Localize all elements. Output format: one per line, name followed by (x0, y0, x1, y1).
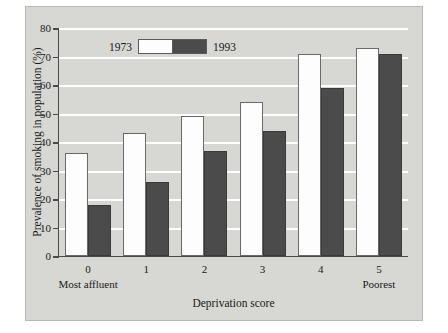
plot-area: Prevalence of smoking in population (%) … (58, 28, 408, 257)
x-axis-title: Deprivation score (59, 297, 408, 309)
x-axis-annotation-poorest: Poorest (362, 278, 395, 290)
bar-1973-1 (123, 133, 146, 256)
y-axis-tick-label: 80 (40, 23, 51, 34)
bar-1993-3 (263, 131, 286, 256)
x-axis-tick-label: 0 (85, 263, 91, 275)
bar-1993-0 (88, 205, 111, 256)
legend-label-1973: 1973 (109, 41, 132, 53)
y-axis-tick-label: 20 (40, 194, 51, 205)
bar-1973-0 (65, 153, 88, 256)
x-axis-tick-label: 4 (318, 263, 324, 275)
chart-figure: Prevalence of smoking in population (%) … (25, 6, 423, 321)
bar-group (292, 28, 350, 256)
bar-group (350, 28, 408, 256)
x-axis-tick-label: 3 (260, 263, 266, 275)
x-axis-annotation-most-affluent: Most affluent (58, 278, 117, 290)
legend-swatch-1973 (139, 40, 172, 53)
y-axis-tick-label: 10 (40, 222, 51, 233)
chart-legend: 1973 1993 (109, 39, 236, 54)
legend-label-1993: 1993 (213, 41, 236, 53)
bar-group (234, 28, 292, 256)
bar-1993-5 (379, 54, 402, 256)
bar-1973-3 (240, 102, 263, 256)
bar-1993-2 (204, 151, 227, 256)
bar-group (117, 28, 175, 256)
bar-1973-4 (298, 54, 321, 256)
legend-swatch-1993 (172, 40, 206, 53)
x-axis-tick-label: 1 (144, 263, 150, 275)
bar-groups (59, 28, 408, 256)
y-axis-tick-label: 30 (40, 165, 51, 176)
x-axis-tick-label: 5 (376, 263, 382, 275)
bar-1993-4 (321, 88, 344, 256)
bar-1993-1 (146, 182, 169, 256)
y-axis-tick-label: 40 (40, 137, 51, 148)
y-axis-tick-label: 70 (40, 51, 51, 62)
bar-group (59, 28, 117, 256)
y-axis-tick-label: 0 (46, 251, 52, 262)
bar-1973-5 (356, 48, 379, 256)
bar-1973-2 (181, 116, 204, 256)
bar-group (175, 28, 233, 256)
y-axis-tick-label: 50 (40, 108, 51, 119)
y-axis-tick-mark (53, 256, 59, 258)
y-axis-tick-label: 60 (40, 80, 51, 91)
x-axis-tick-label: 2 (202, 263, 208, 275)
legend-swatches (138, 39, 207, 54)
